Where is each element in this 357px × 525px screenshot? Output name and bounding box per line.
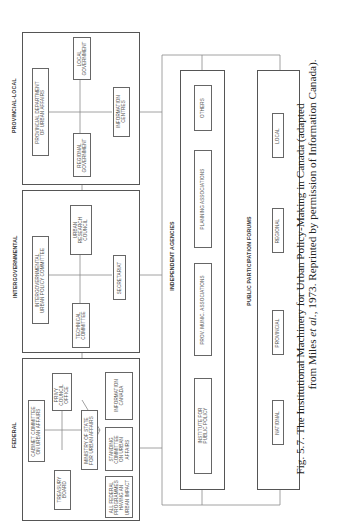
treasury-board-label: TREASURY BOARD: [57, 471, 68, 509]
provincial-local-heading: PROVINCIAL-LOCAL: [12, 83, 18, 133]
intergovernmental-heading: INTERGOVERNMENTAL: [13, 242, 19, 298]
national-forum-label: NATIONAL: [275, 403, 281, 443]
secretariat-label: SECRETARIAT: [117, 256, 123, 300]
all-federal-programmes-label: ALL FEDERAL PROGRAMMES HAVING AN URBAN I…: [109, 478, 130, 518]
provincial-forum-label: PROVINCIAL: [275, 313, 281, 353]
others-label: OTHERS: [200, 88, 206, 128]
provincial-department-label: PROVINCIAL DEPARTMENT OF URBAN AFFAIRS: [35, 70, 46, 156]
urban-research-council-label: URBAN RESEARCH COUNCIL: [73, 206, 89, 254]
independent-agencies-heading: INDEPENDENT AGENCIES: [170, 221, 176, 291]
regional-government-label: REGIONAL GOVERNMENT: [77, 135, 88, 177]
ministry-of-state-label: MINISTRY OF STATE FOR URBAN AFFAIRS: [84, 412, 95, 470]
standing-committee-label: STANDING COMMITTEE ON URBAN AFFAIRS: [109, 429, 130, 471]
figure-caption-line2: from Miles et al., 1973. Reprinted by pe…: [306, 60, 319, 460]
local-forum-label: LOCAL: [275, 116, 281, 156]
prov-munic-associations-label: PROV. MUNIC. ASSOCIATIONS: [200, 270, 206, 350]
intergovernmental-policy-committee-label: INTERGOVERNMENTAL URBAN POLICY COMMITTEE: [35, 238, 46, 324]
local-government-label: LOCAL GOVERNMENT: [77, 38, 88, 80]
planning-associations-label: PLANNING ASSOCIATIONS: [200, 159, 206, 239]
information-canada-label: INFORMATION CANADA: [114, 373, 125, 419]
federal-heading: FEDERAL: [12, 420, 18, 450]
privy-council-office-label: PRIVY COUNCIL OFFICE: [54, 377, 70, 413]
figure-label: Fig. 5.7.: [294, 437, 306, 474]
technical-committee-label: TECHNICAL COMMITTEE: [76, 304, 87, 348]
cabinet-committee-label: CABINET COMMITTEE ON URBAN AFFAIRS: [31, 402, 42, 462]
regional-forum-label: REGIONAL: [275, 211, 281, 251]
public-participation-heading: PUBLIC PARTICIPATION FORUMS: [247, 216, 253, 306]
information-centres-label: INFORMATION CENTRES: [116, 88, 127, 136]
institute-public-policy-label: INSTITUTE FOR PUBLIC POLICY: [198, 396, 209, 456]
caption-line1-text: The Institutional Machinery for Urban Po…: [294, 103, 306, 434]
